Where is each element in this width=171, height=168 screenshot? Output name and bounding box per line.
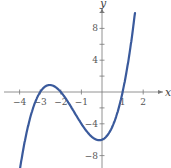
y-tick-label: 4 — [92, 55, 98, 65]
y-tick-label: 8 — [92, 23, 98, 33]
y-tick-label: −4 — [85, 119, 99, 129]
y-axis-label: y — [99, 0, 107, 10]
cubic-curve — [20, 13, 135, 168]
x-tick-label: 2 — [140, 97, 146, 107]
chart: xy−4−3−2−11284−4−8 — [0, 0, 171, 168]
y-tick-label: −8 — [85, 151, 99, 161]
x-tick-label: −1 — [75, 97, 88, 107]
x-tick-label: −4 — [13, 97, 27, 107]
x-axis-label: x — [165, 86, 171, 99]
x-axis-arrow-icon — [158, 90, 163, 94]
